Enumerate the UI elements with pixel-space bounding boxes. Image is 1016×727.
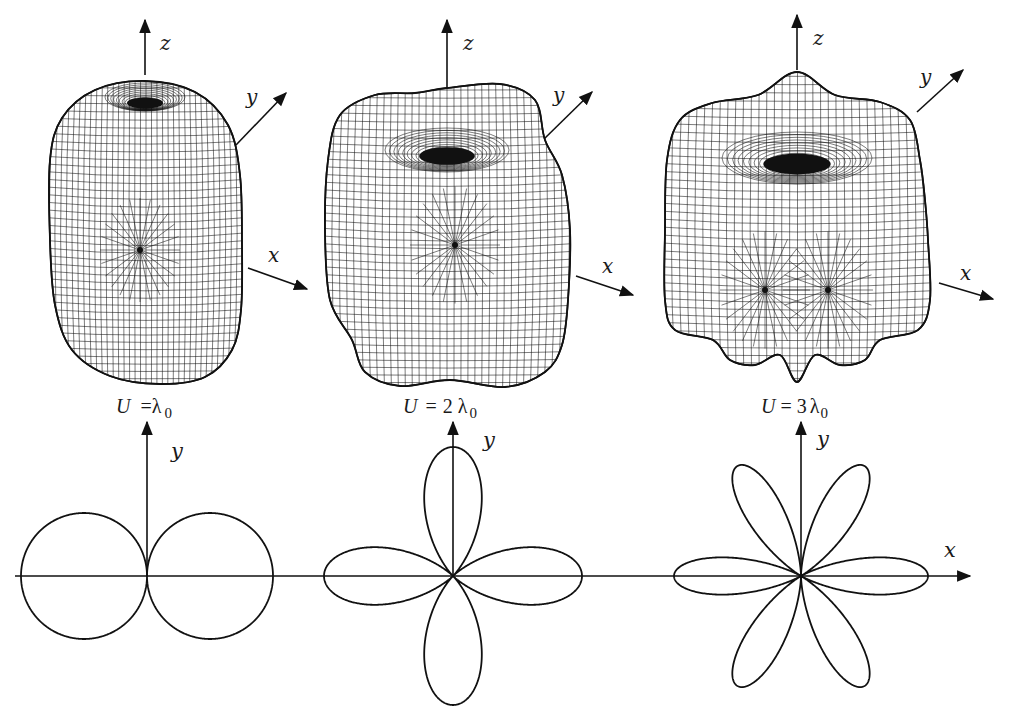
figure-canvas: z y x z y x z y x U=λ (0, 0, 1016, 727)
x-axis-label: x (960, 261, 971, 285)
y-axis-arrow (236, 93, 286, 145)
x-axis-arrow (576, 276, 633, 295)
x-axis-label: x (602, 254, 613, 278)
wireframe-surface (44, 80, 249, 386)
z-axis-label: z (812, 26, 824, 50)
y-axis-arrow (543, 92, 592, 140)
caption-panel-2: U=2λ0 (403, 395, 477, 421)
y-axis-label: y (245, 85, 258, 109)
y-axis-label: y (552, 83, 565, 107)
x-axis-arrow (248, 268, 307, 289)
wireframe-surface (656, 68, 940, 386)
z-axis-label: z (159, 31, 171, 55)
polar-2-y-label: y (482, 428, 496, 452)
x-axis-label: x (268, 243, 279, 267)
y-axis-label: y (919, 65, 932, 89)
surface-panel-3: z y x (656, 15, 994, 386)
polar-plots: x y y y (15, 422, 970, 705)
x-axis-arrow (939, 283, 993, 299)
shared-x-axis-label: x (944, 538, 956, 562)
polar-1-y-label: y (170, 439, 184, 463)
wireframe-surface (318, 82, 577, 390)
figure: z y x z y x z y x U=λ (0, 0, 1016, 727)
z-axis-label: z (462, 31, 474, 55)
surface-panel-2: z y x (318, 20, 634, 390)
caption-panel-1: U=λ0 (116, 395, 172, 421)
surface-panel-1: z y x (44, 20, 308, 386)
caption-panel-3: U=3λ0 (761, 395, 828, 421)
polar-3-y-label: y (816, 427, 830, 451)
